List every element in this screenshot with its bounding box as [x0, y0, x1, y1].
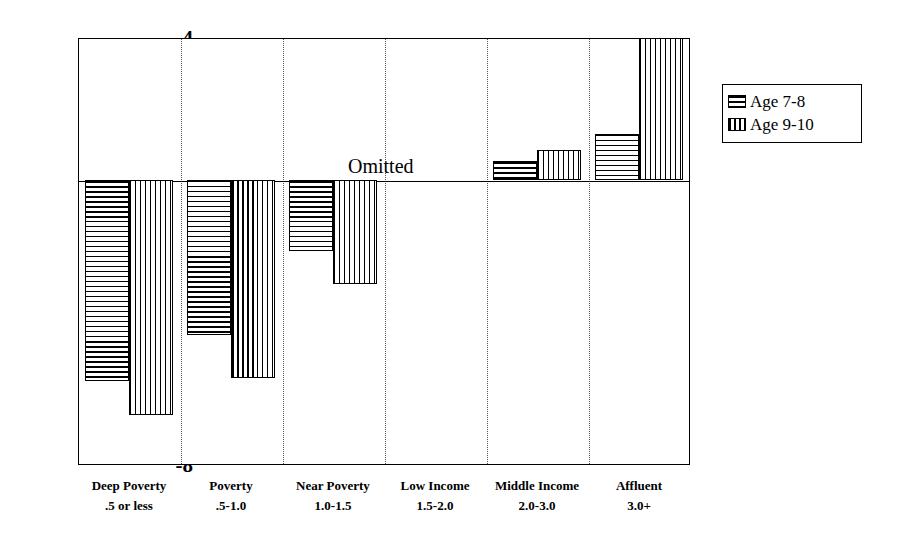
- omitted-annotation: Omitted: [348, 156, 414, 176]
- x-axis-category-name: Middle Income: [495, 478, 579, 493]
- bar: [289, 180, 333, 251]
- legend-swatch-age-7-8: [728, 95, 746, 108]
- bar: [85, 180, 129, 381]
- x-axis-category-name: Poverty: [209, 478, 252, 493]
- bar: [333, 180, 377, 283]
- x-axis-category-name: Deep Poverty: [92, 478, 167, 493]
- legend-label-age-7-8: Age 7-8: [750, 93, 805, 110]
- x-axis-category-name: Near Poverty: [296, 478, 370, 493]
- legend-label-age-9-10: Age 9-10: [750, 116, 814, 133]
- x-axis-group-label: Affluent3.0+: [574, 476, 704, 516]
- legend: Age 7-8 Age 9-10: [722, 84, 862, 143]
- x-axis-category-range: 3.0+: [574, 496, 704, 516]
- bar: [493, 161, 537, 181]
- bar: [639, 38, 683, 180]
- bar: [595, 134, 639, 180]
- chart-figure: 420-2-4-6-8 Omitted Deep Poverty.5 or le…: [0, 0, 905, 559]
- bar: [231, 180, 275, 377]
- legend-item: Age 7-8: [728, 90, 851, 113]
- legend-swatch-age-9-10: [728, 118, 746, 131]
- x-axis-category-name: Low Income: [401, 478, 470, 493]
- bar: [129, 180, 173, 415]
- legend-item: Age 9-10: [728, 113, 851, 136]
- bar: [187, 180, 231, 335]
- bar: [537, 150, 581, 180]
- x-axis-category-name: Affluent: [616, 478, 662, 493]
- bars-layer: [78, 38, 690, 465]
